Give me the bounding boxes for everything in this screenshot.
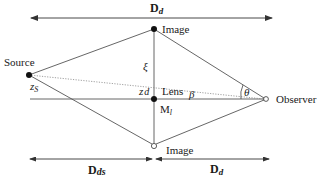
theta-symbol: θ [244,86,250,98]
beta-symbol: β [188,88,195,100]
top-image-label: Image [162,23,190,35]
top-distance-label: Dd [150,1,164,16]
z-s-symbol: zS [29,80,38,94]
observer-circle [264,97,269,102]
top-image-dot [151,26,157,32]
lens-mass-symbol: Ml [160,103,173,117]
bottom-image-label: Image [166,144,194,156]
observer-label: Observer [276,93,317,105]
bottom-left-distance-label: Dds [88,163,106,177]
source-dot [26,72,32,78]
bottom-image-circle [151,143,156,148]
source-label: Source [4,56,35,68]
xi-symbol: ξ [143,60,148,73]
bottom-right-distance-label: Dd [210,162,224,177]
ray-bottom-image-to-observer [156,100,264,144]
z-d-symbol: zd [138,85,150,97]
lens-dot [151,96,157,102]
lensing-diagram: Dd Source Image Lens Image Observer ξ zS… [0,0,321,178]
lens-label: Lens [162,85,183,97]
ray-source-to-top-image [29,29,154,75]
